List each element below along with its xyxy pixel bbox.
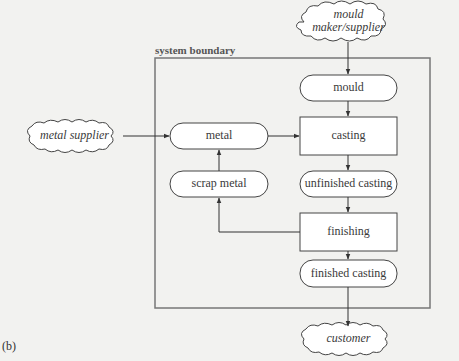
arrow-finishing-to-scrap [219,198,300,232]
customer-label: customer [300,332,397,345]
mould-label: mould [300,81,397,94]
metal-label: metal [170,129,268,142]
system-boundary-label: system boundary [155,44,235,57]
panel-label: (b) [2,339,16,354]
unfinished-casting-label: unfinished casting [300,177,397,190]
casting-label: casting [300,129,397,142]
finished-casting-label: finished casting [300,267,397,280]
scrap-metal-label: scrap metal [170,177,268,190]
finishing-label: finishing [300,225,397,238]
metal-supplier-label: metal supplier [26,129,123,142]
mould-supplier-line2: maker/supplier [300,21,397,34]
